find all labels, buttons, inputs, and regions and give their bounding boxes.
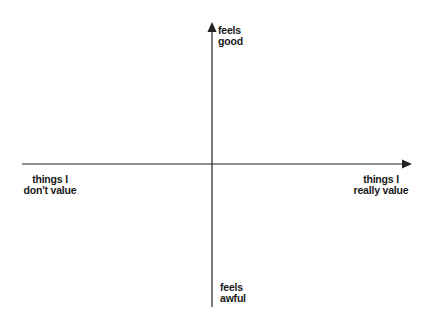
- label-things-i-dont-value: things I don't value: [20, 174, 80, 196]
- label-things-i-really-value: things I really value: [345, 174, 417, 196]
- label-feels-good: feels good: [218, 25, 243, 47]
- up-arrow-icon: [208, 22, 217, 32]
- right-arrow-icon: [402, 160, 412, 169]
- label-line: really value: [345, 185, 417, 196]
- label-line: good: [218, 36, 243, 47]
- label-feels-awful: feels awful: [220, 282, 246, 304]
- label-line: awful: [220, 293, 246, 304]
- label-line: don't value: [20, 185, 80, 196]
- quadrant-axes: [0, 0, 423, 320]
